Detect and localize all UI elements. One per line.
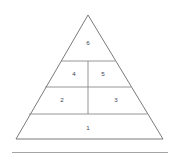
pyramid-diagram: 6 4 5 2 3 1 (0, 0, 179, 162)
segment-4-label: 4 (72, 70, 76, 77)
segment-1-label: 1 (86, 124, 90, 131)
segment-5-region[interactable] (88, 61, 131, 87)
segment-2-label: 2 (60, 96, 64, 103)
segment-3-label: 3 (114, 96, 118, 103)
segment-5-label: 5 (101, 70, 105, 77)
segment-6-label: 6 (86, 39, 90, 46)
segment-6-region[interactable] (61, 15, 115, 61)
segment-4-region[interactable] (45, 61, 88, 87)
diagram-canvas: 6 4 5 2 3 1 (0, 0, 179, 162)
pyramid-segments (16, 15, 163, 139)
